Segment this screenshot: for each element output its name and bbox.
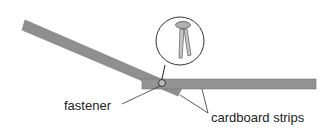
diagram: fastener cardboard strips bbox=[0, 0, 333, 130]
fastener-icon bbox=[159, 80, 166, 87]
fastener-label: fastener bbox=[64, 98, 111, 113]
brad-head-icon bbox=[176, 22, 191, 29]
cardboard-strip-horizontal bbox=[142, 79, 316, 89]
cardboard-strips-label: cardboard strips bbox=[211, 110, 304, 125]
